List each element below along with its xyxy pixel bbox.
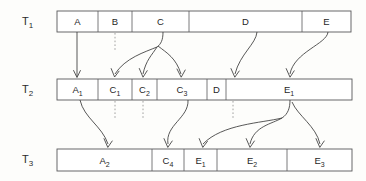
row-label-t2: T2 <box>22 83 34 98</box>
row-label-t3: T3 <box>22 153 34 168</box>
row-box-t1 <box>57 11 351 32</box>
edge-e1-to-e2 <box>250 118 282 144</box>
t1-cell-b[interactable]: B <box>112 16 118 27</box>
t1-cell-c[interactable]: C <box>157 16 164 27</box>
t1-cell-a[interactable]: A <box>74 16 81 27</box>
edge-c-to-c2 <box>143 47 157 74</box>
row-boxes-group: ABCDEA1C1C2C3DE1A2C4E1E2E3 <box>57 11 352 171</box>
edge-e1-to-e3 <box>292 102 320 144</box>
edge-c-to-c1 <box>115 47 157 74</box>
t1-cell-e[interactable]: E <box>323 16 329 27</box>
edge-d-to-d <box>235 32 257 74</box>
row-labels-group: T1T2T3 <box>22 15 34 168</box>
edge-e1-trunk <box>282 100 290 118</box>
edge-c-trunk <box>157 32 163 47</box>
edge-e1-to-e1 <box>203 118 282 144</box>
row-box-t2 <box>57 79 352 100</box>
edge-a1-to-a2 <box>80 100 108 144</box>
edge-e1-to-e1-arrowhead <box>199 139 207 148</box>
edge-e-to-e1 <box>290 32 328 74</box>
row-label-t1: T1 <box>22 15 34 30</box>
diagram-canvas: T1T2T3 ABCDEA1C1C2C3DE1A2C4E1E2E3 <box>0 0 366 181</box>
edge-a1-to-a2-arrowhead <box>104 139 112 148</box>
version-lineage-diagram: T1T2T3 ABCDEA1C1C2C3DE1A2C4E1E2E3 <box>0 0 366 181</box>
t2-cell-d[interactable]: D <box>213 84 220 95</box>
edge-c3-to-c4 <box>168 100 188 144</box>
t1-cell-d[interactable]: D <box>242 16 249 27</box>
